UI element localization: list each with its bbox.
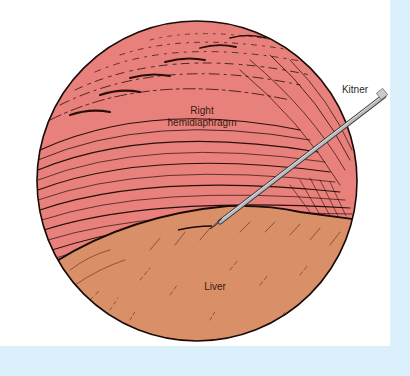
laparoscopic-view-illustration [0,0,410,376]
label-right-hemidiaphragm: Right hemidiaphragm [152,105,252,129]
label-diaphragm-line2: hemidiaphragm [152,117,252,129]
label-liver: Liver [200,281,230,293]
label-kitner: Kitner [335,84,375,96]
label-diaphragm-line1: Right [152,105,252,117]
